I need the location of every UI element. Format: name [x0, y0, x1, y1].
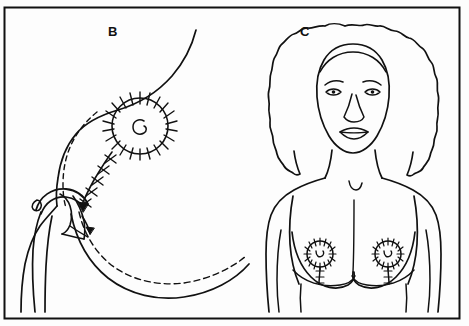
pupil-left	[332, 90, 336, 94]
panel-label-b: B	[108, 25, 118, 38]
abdomen-side-right	[406, 284, 407, 312]
pupil-right	[371, 90, 375, 94]
abdomen-side-left	[300, 284, 301, 312]
panel-label-c: C	[300, 25, 310, 38]
figure-root: B C	[0, 0, 469, 326]
surgical-illustration-svg	[0, 0, 469, 326]
